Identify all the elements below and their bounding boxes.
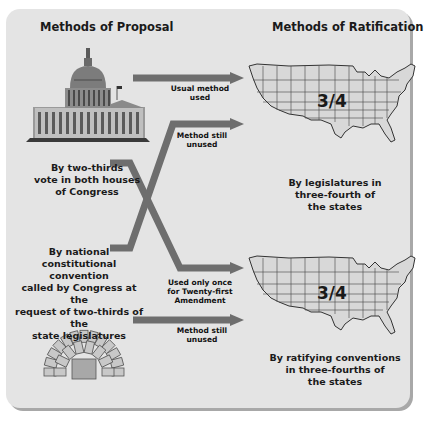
arrow-label-unused-1: Method still unused	[170, 131, 234, 149]
heading-ratification: Methods of Ratification	[272, 20, 424, 34]
arrowhead	[230, 118, 244, 130]
arrowhead	[230, 262, 244, 274]
proposal-convention-text: By national constitutional convention ca…	[14, 246, 144, 342]
seat	[54, 368, 66, 376]
arrow-label-twenty-first: Used only once for Twenty-first Amendmen…	[164, 278, 236, 305]
seat	[73, 341, 83, 354]
capitol-icon	[26, 48, 150, 142]
ratification-legislatures-text: By legislatures in three-fourth of the s…	[270, 177, 400, 213]
fraction-legislatures: 3/4	[317, 91, 347, 111]
arrow-label-unused-2: Method still unused	[170, 326, 234, 344]
ratification-conventions-text: By ratifying conventions in three-fourth…	[260, 352, 410, 388]
seat	[84, 341, 94, 354]
arrowhead	[230, 72, 244, 84]
arrowhead	[230, 314, 244, 326]
proposal-congress-text: By two-thirds vote in both houses of Con…	[22, 162, 152, 198]
fraction-conventions: 3/4	[317, 283, 347, 303]
arrow-label-usual: Usual method used	[168, 84, 232, 102]
heading-proposal: Methods of Proposal	[40, 20, 174, 34]
seat	[102, 368, 114, 376]
